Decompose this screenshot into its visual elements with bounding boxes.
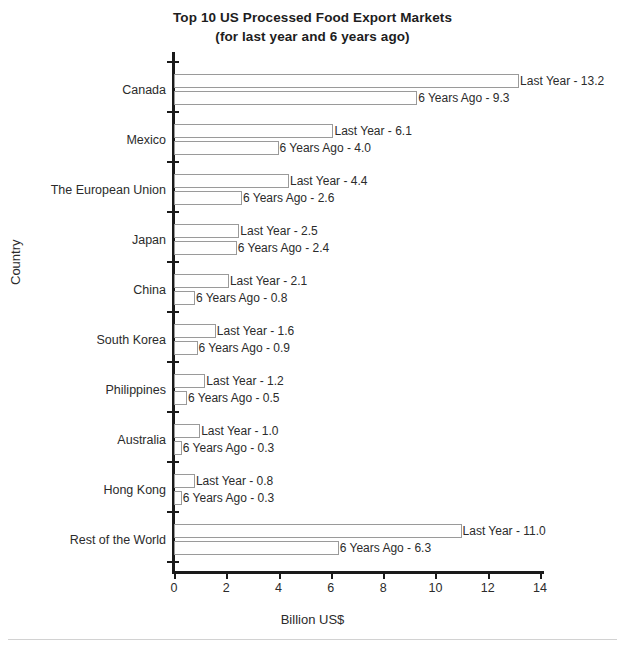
- y-axis-tick: [167, 361, 179, 363]
- bar-value-label: Last Year - 1.0: [201, 424, 278, 438]
- bar-chart: Top 10 US Processed Food Export Markets …: [0, 0, 625, 650]
- chart-title: Top 10 US Processed Food Export Markets: [0, 8, 625, 27]
- y-axis-tick: [167, 461, 179, 463]
- bar-row: Last Year - 13.2: [174, 74, 554, 88]
- bar-last-year[interactable]: [174, 74, 519, 88]
- bar-six-years-ago[interactable]: [174, 191, 242, 205]
- bar-six-years-ago[interactable]: [174, 441, 182, 455]
- bar-last-year[interactable]: [174, 374, 205, 388]
- category-label: Hong Kong: [103, 483, 166, 497]
- category-label: Japan: [132, 233, 166, 247]
- bar-value-label: 6 Years Ago - 0.3: [183, 491, 274, 505]
- bar-last-year[interactable]: [174, 174, 289, 188]
- x-axis-tick: [383, 571, 385, 579]
- bar-value-label: Last Year - 1.6: [217, 324, 294, 338]
- bar-row: 6 Years Ago - 6.3: [174, 541, 554, 555]
- bar-value-label: Last Year - 13.2: [520, 74, 604, 88]
- bar-value-label: 6 Years Ago - 0.5: [188, 391, 279, 405]
- bar-last-year[interactable]: [174, 124, 333, 138]
- bar-last-year[interactable]: [174, 274, 229, 288]
- bar-group: AustraliaLast Year - 1.06 Years Ago - 0.…: [174, 424, 554, 455]
- bar-row: 6 Years Ago - 4.0: [174, 141, 554, 155]
- bar-row: Last Year - 1.0: [174, 424, 554, 438]
- x-axis-tick: [540, 571, 542, 579]
- bar-value-label: Last Year - 0.8: [196, 474, 273, 488]
- category-label: China: [133, 283, 166, 297]
- bar-group: CanadaLast Year - 13.26 Years Ago - 9.3: [174, 74, 554, 105]
- bar-group: The European UnionLast Year - 4.46 Years…: [174, 174, 554, 205]
- bar-value-label: Last Year - 2.5: [240, 224, 317, 238]
- bar-value-label: Last Year - 6.1: [334, 124, 411, 138]
- category-label: Rest of the World: [70, 533, 166, 547]
- bar-six-years-ago[interactable]: [174, 241, 237, 255]
- bar-six-years-ago[interactable]: [174, 141, 279, 155]
- x-axis-tick: [488, 571, 490, 579]
- x-axis-tick-label: 8: [363, 581, 403, 595]
- bar-row: 6 Years Ago - 0.8: [174, 291, 554, 305]
- bar-row: 6 Years Ago - 0.3: [174, 441, 554, 455]
- bar-group: Hong KongLast Year - 0.86 Years Ago - 0.…: [174, 474, 554, 505]
- bar-six-years-ago[interactable]: [174, 91, 417, 105]
- y-axis-title: Country: [8, 239, 23, 285]
- x-axis-tick-label: 10: [415, 581, 455, 595]
- y-axis-tick: [167, 411, 179, 413]
- bar-row: 6 Years Ago - 0.9: [174, 341, 554, 355]
- y-axis-tick: [167, 311, 179, 313]
- x-axis-tick: [279, 571, 281, 579]
- bar-row: 6 Years Ago - 2.4: [174, 241, 554, 255]
- x-axis-tick: [331, 571, 333, 579]
- bar-value-label: 6 Years Ago - 0.8: [196, 291, 287, 305]
- bar-group: PhilippinesLast Year - 1.26 Years Ago - …: [174, 374, 554, 405]
- category-label: Australia: [117, 433, 166, 447]
- bar-six-years-ago[interactable]: [174, 291, 195, 305]
- bar-last-year[interactable]: [174, 424, 200, 438]
- category-label: Mexico: [126, 133, 166, 147]
- category-label: Philippines: [106, 383, 166, 397]
- bar-value-label: 6 Years Ago - 6.3: [340, 541, 431, 555]
- y-axis-tick: [167, 211, 179, 213]
- chart-title-block: Top 10 US Processed Food Export Markets …: [0, 8, 625, 46]
- bar-value-label: 6 Years Ago - 4.0: [280, 141, 371, 155]
- x-axis-tick-label: 6: [311, 581, 351, 595]
- bar-value-label: 6 Years Ago - 9.3: [418, 91, 509, 105]
- bar-row: 6 Years Ago - 0.5: [174, 391, 554, 405]
- x-axis-tick-label: 12: [468, 581, 508, 595]
- bar-value-label: 6 Years Ago - 0.3: [183, 441, 274, 455]
- bar-group: ChinaLast Year - 2.16 Years Ago - 0.8: [174, 274, 554, 305]
- x-axis-tick: [226, 571, 228, 579]
- y-axis-tick: [167, 61, 179, 63]
- bar-six-years-ago[interactable]: [174, 391, 187, 405]
- bar-row: Last Year - 4.4: [174, 174, 554, 188]
- category-label: Canada: [122, 83, 166, 97]
- bar-value-label: Last Year - 2.1: [230, 274, 307, 288]
- bar-six-years-ago[interactable]: [174, 541, 339, 555]
- bar-row: Last Year - 2.5: [174, 224, 554, 238]
- bar-row: 6 Years Ago - 9.3: [174, 91, 554, 105]
- bar-value-label: 6 Years Ago - 0.9: [199, 341, 290, 355]
- bar-row: Last Year - 2.1: [174, 274, 554, 288]
- bar-group: Rest of the WorldLast Year - 11.06 Years…: [174, 524, 554, 555]
- bar-row: 6 Years Ago - 0.3: [174, 491, 554, 505]
- x-axis-tick-label: 4: [259, 581, 299, 595]
- bar-value-label: Last Year - 1.2: [206, 374, 283, 388]
- bar-six-years-ago[interactable]: [174, 491, 182, 505]
- chart-subtitle: (for last year and 6 years ago): [0, 27, 625, 46]
- bar-group: MexicoLast Year - 6.16 Years Ago - 4.0: [174, 124, 554, 155]
- x-axis-tick: [174, 571, 176, 579]
- y-axis-tick: [167, 111, 179, 113]
- bar-six-years-ago[interactable]: [174, 341, 198, 355]
- bar-group: JapanLast Year - 2.56 Years Ago - 2.4: [174, 224, 554, 255]
- bar-last-year[interactable]: [174, 524, 462, 538]
- x-axis-tick: [435, 571, 437, 579]
- x-axis-tick-label: 14: [520, 581, 560, 595]
- bar-row: Last Year - 11.0: [174, 524, 554, 538]
- bar-last-year[interactable]: [174, 224, 239, 238]
- bar-row: 6 Years Ago - 2.6: [174, 191, 554, 205]
- bar-row: Last Year - 1.6: [174, 324, 554, 338]
- bar-last-year[interactable]: [174, 324, 216, 338]
- y-axis-tick: [167, 161, 179, 163]
- bar-last-year[interactable]: [174, 474, 195, 488]
- bar-group: South KoreaLast Year - 1.66 Years Ago - …: [174, 324, 554, 355]
- y-axis-tick: [167, 561, 179, 563]
- bar-value-label: 6 Years Ago - 2.6: [243, 191, 334, 205]
